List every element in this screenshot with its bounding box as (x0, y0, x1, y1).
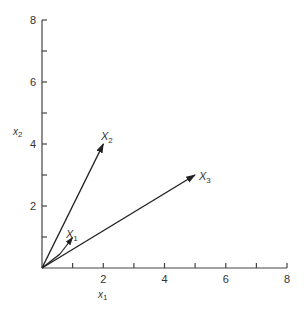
vector-x2-label: X2 (100, 130, 113, 145)
x-tick-labels: 2 4 6 8 (100, 273, 290, 285)
y-tick-label: 2 (30, 200, 36, 212)
x-tick-label: 2 (100, 273, 106, 285)
y-tick-label: 8 (30, 14, 36, 26)
y-tick-labels: 2 4 6 8 (30, 14, 36, 212)
vector-x1-label: X1 (65, 228, 78, 243)
y-axis-label: x2 (12, 126, 23, 139)
x-tick-label: 8 (284, 273, 290, 285)
axes (42, 20, 287, 268)
x-tick-label: 6 (223, 273, 229, 285)
y-tick-label: 6 (30, 76, 36, 88)
x-tick-label: 4 (161, 273, 167, 285)
vector-x3-label: X3 (198, 170, 211, 185)
vectors (42, 144, 195, 268)
x-axis-label: x1 (97, 289, 108, 302)
y-tick-label: 4 (30, 138, 36, 150)
vector-diagram: 2 4 6 8 2 4 6 8 x1 x2 X1 X2 X3 (0, 0, 304, 315)
